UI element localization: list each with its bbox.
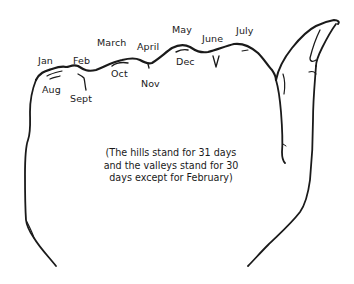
hand-left-crease bbox=[27, 222, 34, 238]
caption-line-3: days except for February) bbox=[88, 172, 254, 185]
label-jan: Jan bbox=[38, 55, 53, 66]
caption-line-2: and the valleys stand for 30 bbox=[88, 160, 254, 173]
hand-left-edge bbox=[25, 80, 56, 266]
thumb-outer-edge bbox=[276, 20, 339, 80]
mark-nov bbox=[148, 64, 149, 68]
label-dec: Dec bbox=[176, 56, 195, 67]
mark-june-valley bbox=[213, 56, 219, 67]
mark-dec bbox=[176, 50, 188, 52]
thumb-right-edge bbox=[248, 66, 316, 266]
thumb-inner-edge bbox=[316, 24, 336, 66]
finger-mark bbox=[283, 74, 285, 94]
label-nov: Nov bbox=[141, 78, 160, 89]
label-june: June bbox=[202, 33, 223, 44]
label-oct: Oct bbox=[111, 68, 128, 79]
hand-outline-drawing bbox=[0, 0, 354, 284]
caption-line-1: (The hills stand for 31 days bbox=[88, 147, 254, 160]
label-sept: Sept bbox=[70, 93, 92, 104]
label-march: March bbox=[97, 37, 126, 48]
mark-sept bbox=[78, 74, 86, 90]
label-may: May bbox=[172, 24, 192, 35]
label-july: July bbox=[236, 25, 253, 36]
mark-aug bbox=[47, 71, 62, 79]
finger-mark bbox=[283, 144, 286, 146]
mark-july bbox=[242, 50, 248, 51]
label-feb: Feb bbox=[73, 55, 90, 66]
label-aug: Aug bbox=[42, 84, 61, 95]
label-april: April bbox=[137, 41, 159, 52]
caption: (The hills stand for 31 days and the val… bbox=[88, 147, 254, 185]
